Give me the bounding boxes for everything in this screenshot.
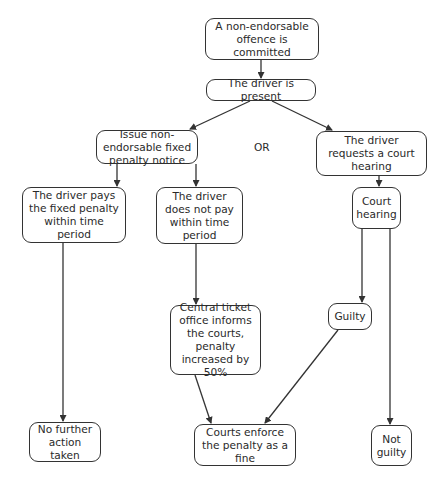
or-label: OR (254, 141, 270, 153)
node-driver-does-not-pay: The driver does not pay within time peri… (156, 187, 243, 244)
node-requests-court-hearing: The driver requests a court hearing (316, 131, 427, 176)
node-offence-committed: A non-endorsable offence is committed (205, 18, 319, 60)
node-no-further-action: No further action taken (29, 422, 101, 462)
node-central-ticket-office: Central ticket office informs the courts… (170, 305, 261, 375)
node-driver-pays: The driver pays the fixed penalty within… (22, 187, 126, 243)
node-guilty: Guilty (328, 303, 372, 330)
node-not-guilty: Not guilty (371, 425, 412, 466)
node-court-hearing: Court hearing (352, 187, 401, 229)
node-courts-enforce-fine: Courts enforce the penalty as a fine (194, 424, 296, 466)
node-issue-fixed-penalty: Issue non-endorsable fixed penalty notic… (96, 130, 198, 164)
node-driver-present: The driver is present (206, 79, 316, 101)
